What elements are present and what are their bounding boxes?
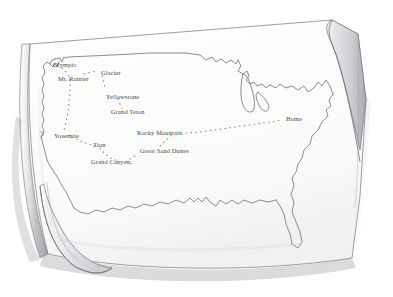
map-label-mt-rainier: Mt. Rainier (58, 76, 89, 82)
map-label-olympic: Olympic (53, 62, 76, 68)
map-label-grand-canyon: Grand Canyon, (91, 159, 132, 165)
map-label-glacier: Glacier (101, 70, 121, 76)
map-label-grand-teton: Grand Teton (111, 109, 145, 115)
paper-map-illustration (0, 0, 393, 297)
map-label-home: Home (286, 116, 302, 122)
map-label-rocky-mountain: Rocky Mountain (137, 130, 182, 136)
paper-sheet (29, 20, 366, 268)
map-label-great-sand-dunes: Great Sand Dunes (140, 148, 189, 154)
map-label-yosemite: Yosemite (54, 133, 79, 139)
map-scene: Olympic Glacier Mt. Rainier Yellowstone … (0, 0, 393, 297)
map-label-zion: Zion (93, 142, 106, 148)
map-label-yellowstone: Yellowstone (106, 94, 139, 100)
